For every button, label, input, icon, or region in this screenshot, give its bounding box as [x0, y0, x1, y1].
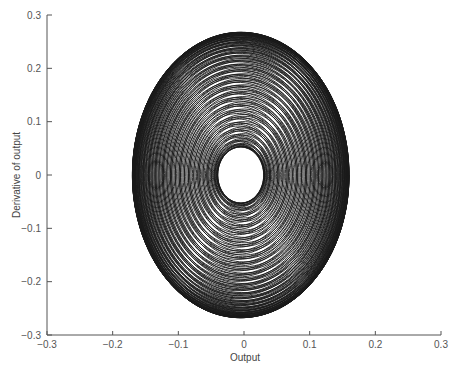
- y-tick-label: 0: [35, 170, 41, 181]
- x-tick-label: 0.2: [368, 339, 382, 350]
- y-tick-label: 0.1: [27, 116, 41, 127]
- y-tick-label: −0.3: [21, 330, 41, 341]
- x-axis-label: Output: [230, 352, 260, 363]
- x-ticks: −0.3−0.2−0.100.10.20.3: [37, 331, 448, 350]
- y-tick-label: 0.2: [27, 63, 41, 74]
- x-tick-label: 0.3: [434, 339, 448, 350]
- phase-plot: −0.3−0.2−0.100.10.20.3 −0.3−0.2−0.100.10…: [0, 0, 457, 377]
- phase-trajectory: [132, 32, 349, 317]
- y-axis-label: Derivative of output: [11, 132, 22, 218]
- y-tick-label: 0.3: [27, 10, 41, 21]
- x-tick-label: 0: [241, 339, 247, 350]
- x-tick-label: −0.3: [37, 339, 57, 350]
- y-tick-label: −0.1: [21, 223, 41, 234]
- x-tick-label: −0.2: [103, 339, 123, 350]
- x-tick-label: −0.1: [168, 339, 188, 350]
- x-tick-label: 0.1: [303, 339, 317, 350]
- y-tick-label: −0.2: [21, 276, 41, 287]
